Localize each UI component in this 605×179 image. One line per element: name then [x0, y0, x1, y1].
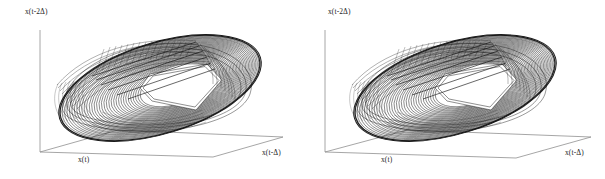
attractor-trajectory-right — [341, 14, 568, 163]
axis-label-y-left: x(t-Δ) — [262, 148, 281, 157]
floor-edge-front-left — [325, 152, 516, 158]
axis-label-z-left: x(t-2Δ) — [25, 7, 48, 16]
figure-attractor-pair: x(t-2Δ) x(t) x(t-Δ) x(t-2Δ) x(t) x(t-Δ) — [0, 0, 605, 179]
axis-label-y-right: x(t-Δ) — [565, 148, 584, 157]
axis-label-x-left: x(t) — [78, 155, 89, 164]
axis-label-z-right: x(t-2Δ) — [328, 7, 351, 16]
attractor-trajectory-left — [46, 14, 273, 163]
attractor-panel-left: x(t-2Δ) x(t) x(t-Δ) — [0, 0, 302, 179]
axis-label-x-right: x(t) — [381, 155, 392, 164]
attractor-panel-right: x(t-2Δ) x(t) x(t-Δ) — [303, 0, 605, 179]
attractor-plot-right — [303, 0, 605, 179]
floor-edge-back-right — [118, 130, 283, 137]
floor-edge-front-left — [40, 152, 213, 157]
attractor-plot-left — [0, 0, 302, 179]
